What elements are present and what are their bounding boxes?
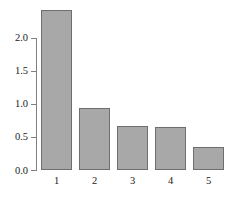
x-axis-tick-label-3: 3 [117,176,148,187]
y-axis-tick-1: 0.5 [31,137,36,138]
x-axis-tick-label-2: 2 [79,176,110,187]
y-axis-tick-4: 2.0 [31,38,36,39]
bar-chart: 0.0 0.5 1.0 1.5 2.0 1 2 3 4 5 [0,0,229,200]
x-axis-tick-label-4: 4 [155,176,186,187]
bar-1 [41,10,72,170]
x-axis-tick-label-1: 1 [41,176,72,187]
y-axis-tick-label-3: 1.5 [15,66,28,77]
bar-4 [155,127,186,170]
bar-2 [79,108,110,170]
y-axis-tick-0: 0.0 [31,170,36,171]
y-axis-tick-label-2: 1.0 [15,99,28,110]
bar-3 [117,126,148,170]
y-axis-tick-label-1: 0.5 [15,132,28,143]
y-axis-tick-label-0: 0.0 [15,165,28,176]
x-axis-tick-label-5: 5 [193,176,224,187]
y-axis-tick-label-4: 2.0 [15,33,28,44]
y-axis-tick-2: 1.0 [31,104,36,105]
y-axis-line [36,38,37,171]
plot-area: 0.0 0.5 1.0 1.5 2.0 1 2 3 4 5 [0,0,229,200]
y-axis-tick-3: 1.5 [31,71,36,72]
bar-5 [193,147,224,170]
